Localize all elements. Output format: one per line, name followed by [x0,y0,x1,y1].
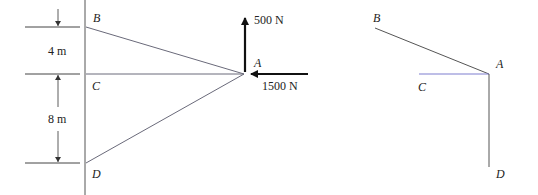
dimension-8m-label: 8 m [48,113,66,125]
right-member-ab [375,28,489,74]
point-a-label: A [254,57,261,69]
right-point-d-label: D [496,168,505,180]
right-point-b-label: B [373,12,380,24]
diagram-canvas [0,0,538,195]
point-d-label: D [92,168,101,180]
right-point-a-label: A [496,58,503,70]
force-500n-label: 500 N [254,14,284,26]
point-c-label: C [92,80,100,92]
dimension-4m-label: 4 m [48,45,66,57]
member-ad [86,74,244,163]
truss-diagram: B C D A 4 m 8 m 500 N 1500 N B C A D [0,0,538,195]
right-point-c-label: C [418,81,426,93]
force-1500n-label: 1500 N [262,80,298,92]
point-b-label: B [93,12,100,24]
member-ab [86,27,244,74]
